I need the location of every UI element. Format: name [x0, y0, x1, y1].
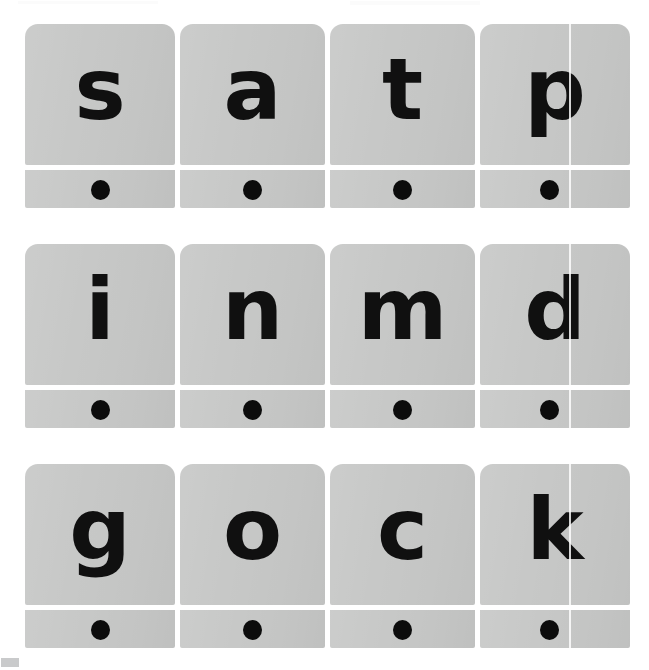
card-sound-strip	[480, 610, 630, 648]
card-face: p	[480, 24, 630, 165]
card-letter: m	[330, 266, 475, 352]
card-sound-strip	[25, 390, 175, 428]
sound-dot-icon	[243, 620, 262, 640]
letter-card-a[interactable]: a	[180, 24, 325, 208]
card-face: k	[480, 464, 630, 605]
card-face: g	[25, 464, 175, 605]
card-letter: s	[25, 46, 175, 132]
card-face: i	[25, 244, 175, 385]
phonics-card-sheet: s a t p	[0, 0, 649, 670]
sound-dot-icon	[393, 400, 412, 420]
card-letter: t	[330, 46, 475, 132]
sound-dot-icon	[243, 400, 262, 420]
sound-dot-icon	[91, 620, 110, 640]
sound-dot-icon	[243, 180, 262, 200]
card-letter: k	[480, 486, 630, 572]
card-face: d	[480, 244, 630, 385]
letter-card-d[interactable]: d	[480, 244, 630, 428]
letter-card-p[interactable]: p	[480, 24, 630, 208]
card-sound-strip	[480, 390, 630, 428]
letter-card-m[interactable]: m	[330, 244, 475, 428]
corner-swatch	[1, 658, 19, 667]
sound-dot-icon	[91, 180, 110, 200]
sound-dot-icon	[393, 620, 412, 640]
sound-dot-icon	[91, 400, 110, 420]
sound-dot-icon	[540, 180, 559, 200]
letter-card-i[interactable]: i	[25, 244, 175, 428]
card-sound-strip	[330, 390, 475, 428]
letter-card-s[interactable]: s	[25, 24, 175, 208]
card-grid: s a t p	[0, 0, 649, 670]
card-sound-strip	[25, 610, 175, 648]
sound-dot-icon	[393, 180, 412, 200]
card-face: t	[330, 24, 475, 165]
card-letter: a	[180, 46, 325, 132]
card-face: c	[330, 464, 475, 605]
letter-card-n[interactable]: n	[180, 244, 325, 428]
card-face: n	[180, 244, 325, 385]
letter-card-k[interactable]: k	[480, 464, 630, 648]
card-sound-strip	[25, 170, 175, 208]
card-letter: n	[180, 266, 325, 352]
card-face: m	[330, 244, 475, 385]
sound-dot-icon	[540, 620, 559, 640]
card-face: s	[25, 24, 175, 165]
letter-card-o[interactable]: o	[180, 464, 325, 648]
card-letter: g	[25, 486, 175, 572]
card-letter: o	[180, 486, 325, 572]
sound-dot-icon	[540, 400, 559, 420]
card-face: a	[180, 24, 325, 165]
card-sound-strip	[480, 170, 630, 208]
letter-card-c[interactable]: c	[330, 464, 475, 648]
card-letter: d	[480, 266, 630, 352]
card-face: o	[180, 464, 325, 605]
card-sound-strip	[180, 170, 325, 208]
card-letter: i	[25, 266, 175, 352]
letter-card-g[interactable]: g	[25, 464, 175, 648]
letter-card-t[interactable]: t	[330, 24, 475, 208]
card-sound-strip	[180, 610, 325, 648]
card-letter: c	[330, 486, 475, 572]
card-sound-strip	[180, 390, 325, 428]
card-letter: p	[480, 46, 630, 132]
card-sound-strip	[330, 170, 475, 208]
card-sound-strip	[330, 610, 475, 648]
